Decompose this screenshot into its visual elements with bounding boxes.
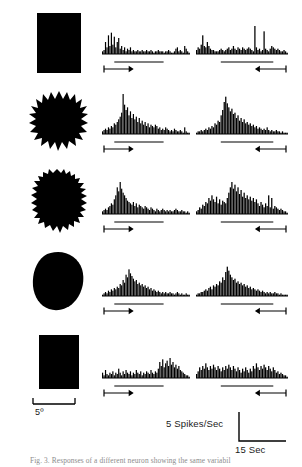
histogram-bar [260, 292, 261, 296]
histogram-bar [111, 374, 112, 378]
histogram-bar [118, 369, 119, 378]
histogram-bar [165, 363, 166, 378]
histogram-bar [118, 119, 119, 134]
histogram-bars [196, 26, 288, 54]
histogram-bar [142, 284, 143, 296]
histogram-bar [109, 206, 110, 214]
histogram-bar [158, 291, 159, 296]
histogram-bar [247, 370, 248, 378]
histogram-bar [175, 49, 176, 54]
histogram-bar [213, 365, 214, 378]
histogram-bar [221, 49, 222, 54]
stimulus-shape-star-jagged [28, 88, 90, 154]
histogram-bar [156, 292, 157, 296]
histogram-bar [198, 210, 199, 214]
histogram-bar [127, 373, 128, 378]
histogram-bars [102, 94, 190, 134]
histogram-bar [247, 195, 248, 214]
histogram-bar [199, 207, 200, 214]
histogram-bar [137, 284, 138, 296]
histogram-bar [231, 277, 232, 296]
histogram-bar [253, 125, 254, 134]
histogram-bar [130, 47, 131, 54]
histogram-bar [161, 210, 162, 214]
histogram-bar [103, 210, 104, 214]
histogram-bar [169, 210, 170, 214]
histogram-bar [237, 281, 238, 296]
histogram-plot [196, 88, 288, 160]
histogram-bar [136, 117, 137, 134]
histogram-bar [219, 281, 220, 296]
histogram-bar [207, 291, 208, 296]
histogram-bar [247, 49, 248, 54]
histogram-bar [245, 287, 246, 296]
histogram-bar [143, 125, 144, 134]
histogram-bar [237, 367, 238, 378]
histogram-bar [142, 121, 143, 134]
histogram-bar [224, 102, 225, 134]
histogram-bar [133, 373, 134, 378]
histogram-bar [152, 373, 153, 378]
histogram-bar [224, 280, 225, 296]
histogram-bar [111, 203, 112, 214]
histogram-bar [254, 127, 255, 134]
histogram-bar [202, 205, 203, 214]
histogram-bar [146, 50, 147, 54]
histogram-bar [239, 370, 240, 378]
histogram-bar [125, 275, 126, 296]
histogram-bar [273, 209, 274, 214]
histogram-bar [111, 33, 112, 54]
histogram-bar [257, 367, 258, 378]
histogram-bar [108, 207, 109, 214]
histogram-bar [164, 367, 165, 378]
histogram-bar [130, 371, 131, 378]
histogram-bar [121, 113, 122, 134]
histogram-bar [273, 47, 274, 54]
stimulus-shape-solid-rectangle [28, 10, 90, 76]
histogram-bar [147, 373, 148, 378]
histogram-bar [233, 114, 234, 134]
histogram-bar [268, 366, 269, 378]
histogram-bar [216, 370, 217, 378]
histogram-bar [142, 207, 143, 214]
leftward-arrow-icon [255, 66, 286, 73]
histogram-bar [271, 371, 272, 378]
histogram-bar [240, 190, 241, 214]
histogram-bar [115, 195, 116, 214]
leftward-arrow-icon [255, 390, 286, 397]
histogram-bars [196, 363, 288, 378]
histogram-bar [244, 49, 245, 54]
histogram-bar [155, 371, 156, 378]
histogram-bar [250, 123, 251, 134]
histogram-bar [199, 367, 200, 378]
histogram-bar [164, 210, 165, 214]
histogram-bar [219, 369, 220, 378]
histogram-plot [102, 88, 190, 160]
histogram-bar [140, 123, 141, 134]
histogram-bar [263, 365, 264, 378]
histogram-bar [123, 193, 124, 214]
histogram-bar [213, 199, 214, 214]
histogram-bar [134, 281, 135, 296]
histogram-bar [204, 206, 205, 214]
histogram-bar [105, 42, 106, 54]
histogram-bar [236, 371, 237, 378]
histogram-bar [112, 371, 113, 378]
stimulus-row [0, 86, 302, 164]
histogram-bar [150, 288, 151, 296]
histogram-bar [111, 289, 112, 296]
histogram-bar [174, 367, 175, 378]
histogram-bar [161, 366, 162, 378]
histogram-bar [271, 46, 272, 54]
histogram-bar [270, 369, 271, 378]
histogram-bar [120, 117, 121, 134]
histogram-bar [233, 189, 234, 214]
histogram-bar [248, 47, 249, 54]
histogram-bar [112, 127, 113, 134]
histogram-plot [102, 332, 190, 404]
histogram-bar [265, 49, 266, 54]
histogram-bar [274, 370, 275, 378]
histogram-bar [128, 115, 129, 134]
histogram-bar [175, 209, 176, 214]
histogram-bar [125, 110, 126, 134]
